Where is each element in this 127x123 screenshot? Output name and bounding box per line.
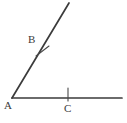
vertex-label-c: C (64, 103, 71, 114)
vertex-label-b: B (28, 34, 35, 45)
vertex-label-a: A (4, 100, 12, 111)
ray-ab-line (12, 3, 69, 98)
angle-diagram-figure: A B C (0, 0, 127, 123)
